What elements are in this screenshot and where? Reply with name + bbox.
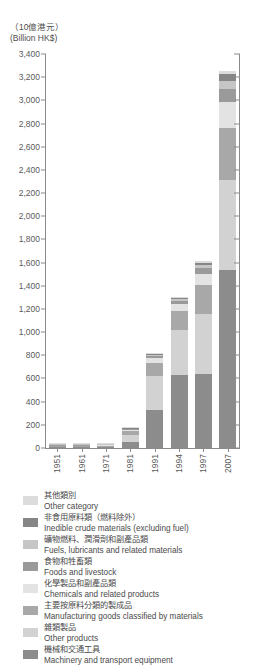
y-axis-tick-label: 2,800 (19, 119, 40, 129)
x-axis-tick-mark (82, 448, 83, 452)
legend-item-label: 食物和牲畜類 Foods and livestock (44, 556, 116, 578)
legend-color-swatch (23, 650, 38, 659)
y-axis-tick-label: 2,400 (19, 165, 40, 175)
bar-segment (195, 374, 212, 448)
bar-segment (195, 314, 212, 374)
legend-item-label: 化學製品和副產品類 Chemicals and related products (44, 578, 159, 600)
y-axis-tick-mark (41, 100, 46, 101)
y-axis-tick-label: 3,000 (19, 95, 40, 105)
y-axis-tick-mark-right (234, 193, 240, 194)
legend-color-swatch (23, 606, 38, 615)
x-axis-tick-label: 1961 (77, 454, 87, 473)
x-axis-tick-mark (228, 448, 229, 452)
y-axis-tick-label: 1,400 (19, 281, 40, 291)
legend-item: 化學製品和副產品類 Chemicals and related products (0, 578, 255, 600)
y-axis-tick-mark-right (234, 401, 240, 402)
legend-color-swatch (23, 562, 38, 571)
y-axis-tick-label: 0 (35, 443, 40, 453)
y-axis-tick-label: 1,000 (19, 327, 40, 337)
y-axis-tick-label: 200 (26, 420, 40, 430)
y-axis-tick-mark (41, 169, 46, 170)
y-axis-tick-mark (41, 308, 46, 309)
y-axis-tick-label: 2,000 (19, 211, 40, 221)
y-axis-tick-label: 1,800 (19, 234, 40, 244)
y-axis-tick-mark-right (234, 146, 240, 147)
y-axis-tick-mark-right (234, 332, 240, 333)
y-axis-tick-mark (41, 355, 46, 356)
y-axis-tick-mark (41, 239, 46, 240)
chart-plot-area: 3,4003,2003,0002,8002,6002,4002,2002,000… (0, 50, 255, 462)
y-axis-tick-mark-right (234, 262, 240, 263)
x-axis-tick-mark (203, 448, 204, 452)
y-axis-tick-mark (41, 424, 46, 425)
legend-item-label: 礦物燃料、潤滑劑和副產品類 Fuels, lubricants and rela… (44, 534, 182, 556)
legend-color-swatch (23, 540, 38, 549)
y-axis-tick-mark (41, 448, 46, 449)
legend-color-swatch (23, 496, 38, 505)
legend-color-swatch (23, 584, 38, 593)
x-axis-tick-label: 1994 (174, 454, 184, 473)
legend-item-label: 雜類製品 Other products (44, 622, 98, 644)
stacked-bar (219, 71, 236, 448)
x-axis-tick-label: 1991 (150, 454, 160, 473)
y-axis-tick-labels: 3,4003,2003,0002,8002,6002,4002,2002,000… (0, 50, 44, 450)
y-axis-tick-mark (41, 401, 46, 402)
legend-item-label: 其他類別 Other category (44, 490, 98, 512)
x-axis-tick-label: 1997 (198, 454, 208, 473)
legend-item: 非食用原料類（燃料除外） Inedible crude materials (e… (0, 512, 255, 534)
x-axis-tick-mark (106, 448, 107, 452)
y-axis-tick-mark-right (234, 424, 240, 425)
bar-segment (219, 270, 236, 448)
legend-item: 其他類別 Other category (0, 490, 255, 512)
y-axis-tick-mark (41, 146, 46, 147)
y-axis-tick-mark-right (234, 285, 240, 286)
y-axis-tick-label: 3,200 (19, 72, 40, 82)
y-axis-tick-label: 1,600 (19, 258, 40, 268)
x-axis-baseline (45, 448, 240, 449)
y-axis-tick-mark (41, 378, 46, 379)
legend-item-label: 機械和交通工具 Machinery and transport equipmen… (44, 644, 173, 666)
bar-segment (122, 435, 139, 442)
legend-item: 機械和交通工具 Machinery and transport equipmen… (0, 644, 255, 666)
axis-unit-label: （10億港元） (Billion HK$) (10, 22, 64, 43)
y-axis-tick-mark (41, 285, 46, 286)
bar-segment (146, 410, 163, 448)
stacked-bar (195, 261, 212, 448)
y-axis-tick-mark (41, 193, 46, 194)
legend-color-swatch (23, 628, 38, 637)
y-axis-tick-mark-right (234, 216, 240, 217)
bar-segment (219, 81, 236, 90)
bar-segment (171, 375, 188, 448)
y-axis-tick-mark-right (234, 355, 240, 356)
y-axis-tick-mark-right (234, 169, 240, 170)
x-axis-tick-label: 1971 (101, 454, 111, 473)
x-axis-tick-mark (155, 448, 156, 452)
bar-segment (219, 102, 236, 129)
x-axis-tick-mark (179, 448, 180, 452)
bar-segment (219, 128, 236, 180)
y-axis-tick-mark-right (234, 239, 240, 240)
legend-item-label: 主要按原料分類的製成品 Manufacturing goods classifi… (44, 600, 203, 622)
bar-segment (171, 311, 188, 330)
y-axis-tick-mark-right (234, 308, 240, 309)
stacked-bar (171, 297, 188, 448)
bar-segment (146, 363, 163, 376)
y-axis-tick-mark-right (234, 54, 240, 55)
y-axis-tick-label: 3,400 (19, 49, 40, 59)
x-axis-tick-mark (57, 448, 58, 452)
y-axis-tick-label: 1,200 (19, 304, 40, 314)
stacked-bar (122, 427, 139, 448)
x-axis-tick-label: 1951 (52, 454, 62, 473)
legend-item: 主要按原料分類的製成品 Manufacturing goods classifi… (0, 600, 255, 622)
x-axis-tick-label: 2007 (223, 454, 233, 473)
y-axis-tick-label: 2,200 (19, 188, 40, 198)
y-axis-tick-label: 800 (26, 350, 40, 360)
stacked-bar (146, 353, 163, 448)
y-axis-tick-mark (41, 123, 46, 124)
y-axis-tick-mark-right (234, 100, 240, 101)
y-axis-tick-mark (41, 262, 46, 263)
y-axis-tick-mark-right (234, 77, 240, 78)
bar-segment (146, 376, 163, 411)
y-axis-tick-mark (41, 77, 46, 78)
y-axis-tick-mark-right (234, 378, 240, 379)
